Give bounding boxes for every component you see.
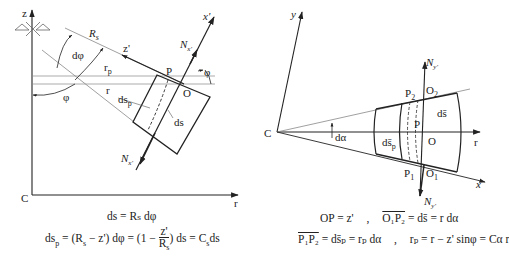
nx-bottom-label: Nx' <box>120 152 133 167</box>
y-axis-label: y <box>290 8 296 20</box>
ds-label: ds <box>174 116 184 128</box>
right-diagram: y C r x dα Ny' Ny' P2 O2 P1 O1 P O ds̄ d… <box>264 8 485 210</box>
phi-left-label: φ <box>63 91 69 103</box>
dsp-label: dsp <box>118 93 132 108</box>
z-prime-axis <box>122 55 184 84</box>
ny-top-label: Ny' <box>425 56 438 71</box>
dsp-bar-label: ds̄p <box>382 136 396 151</box>
x-axis-label: x <box>475 178 481 190</box>
z-axis-label: z <box>22 7 27 19</box>
ds-bar-label: ds̄ <box>437 107 447 119</box>
equation-dsp: dsp = (Rs − z') dφ = (1 − z'Rs) ds = Csd… <box>45 226 220 253</box>
ny-bottom-label: Ny' <box>423 195 436 210</box>
phi-right-label: φ <box>204 66 210 78</box>
origin-c-label: C <box>21 192 28 204</box>
p-label-right: P <box>414 118 420 130</box>
p-label: P <box>166 65 172 77</box>
dphi-label: dφ <box>72 49 84 61</box>
equation-ds: ds = Rₛ dφ <box>107 209 156 223</box>
o2-label: O2 <box>426 84 438 99</box>
equation-p1p2: P₁P₂ = ds̄ₚ = rₚ dα , rₚ = r − z' sinφ =… <box>298 232 509 246</box>
y-axis <box>277 12 302 132</box>
o1-label: O1 <box>426 167 438 182</box>
x-prime-label: x' <box>202 10 211 22</box>
x-axis <box>277 132 485 182</box>
r-axis-right-label: r <box>474 136 478 148</box>
shell-element <box>133 75 210 154</box>
r-axis-label: r <box>234 197 238 209</box>
z-prime-label: z' <box>123 42 130 54</box>
o-label: O <box>183 87 191 99</box>
equation-op: OP = z' , O₁P₂ = ds̄ = r dα <box>320 212 458 224</box>
origin-c-right-label: C <box>264 127 271 139</box>
nx-top-label: Nx' <box>179 38 192 53</box>
p1-label: P1 <box>404 167 414 182</box>
o-label-right: O <box>428 135 436 147</box>
left-diagram: z C r Rs dφ rp r φ φ z' x' P O dsp ds Nx… <box>15 7 238 209</box>
p2-label: P2 <box>405 87 415 102</box>
rp-label: rp <box>104 61 112 76</box>
dalpha-label: dα <box>335 131 347 143</box>
r-label: r <box>106 84 110 96</box>
